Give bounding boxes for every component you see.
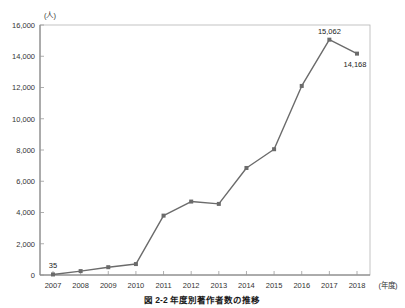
data-point-marker: [300, 84, 304, 88]
data-point-marker: [51, 272, 55, 276]
data-point-marker: [217, 202, 221, 206]
x-tick-label: 2017: [321, 281, 338, 290]
data-point-marker: [355, 52, 359, 56]
data-point-marker: [189, 200, 193, 204]
data-point-marker: [79, 269, 83, 273]
x-tick-label: 2013: [210, 281, 227, 290]
x-axis-unit-label: (年度): [379, 280, 398, 290]
data-point-marker: [327, 38, 331, 42]
x-tick-label: 2014: [238, 281, 255, 290]
x-tick-label: 2018: [349, 281, 366, 290]
data-point-marker: [244, 166, 248, 170]
y-tick-label: 6,000: [16, 177, 35, 186]
y-tick-label: 4,000: [16, 208, 35, 217]
y-tick-label: 8,000: [16, 146, 35, 155]
x-tick-label: 2011: [155, 281, 171, 290]
data-point-marker: [106, 265, 110, 269]
y-axis-ticks: 02,0004,0006,0008,00010,00012,00014,0001…: [12, 21, 44, 280]
data-point-marker: [134, 262, 138, 266]
y-tick-label: 16,000: [12, 21, 35, 30]
line-chart: (人) 02,0004,0006,0008,00010,00012,00014,…: [0, 0, 405, 308]
data-point-marker: [272, 147, 276, 151]
y-axis-unit-label: (人): [44, 11, 56, 20]
plot-area-frame: [40, 25, 370, 275]
data-value-label: 15,062: [318, 27, 341, 36]
y-tick-label: 10,000: [12, 115, 35, 124]
figure-caption: 図 2-2 年度別著作者数の推移: [144, 295, 260, 305]
x-tick-label: 2015: [266, 281, 283, 290]
y-tick-label: 2,000: [16, 240, 35, 249]
data-point-marker: [162, 214, 166, 218]
y-tick-label: 12,000: [12, 83, 35, 92]
x-tick-label: 2012: [183, 281, 200, 290]
x-tick-label: 2008: [72, 281, 89, 290]
x-tick-label: 2007: [45, 281, 62, 290]
data-value-label: 35: [49, 261, 57, 270]
figure-container: (人) 02,0004,0006,0008,00010,00012,00014,…: [0, 0, 405, 308]
x-tick-label: 2010: [128, 281, 145, 290]
data-value-label: 14,168: [344, 60, 367, 69]
x-tick-label: 2009: [100, 281, 117, 290]
x-tick-label: 2016: [293, 281, 310, 290]
y-tick-label: 0: [31, 271, 35, 280]
y-tick-label: 14,000: [12, 52, 35, 61]
